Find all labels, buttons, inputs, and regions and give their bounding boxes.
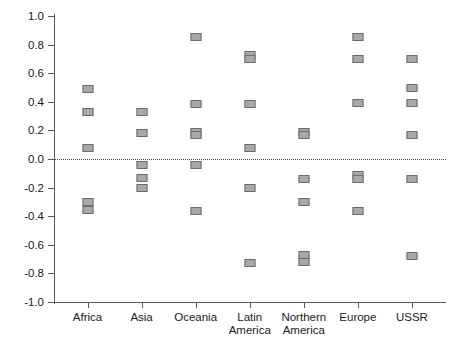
data-point-marker — [82, 144, 93, 152]
x-axis-label-line: Asia — [130, 311, 152, 324]
x-axis-label-line: Africa — [73, 311, 102, 324]
chart-figure: 1.00.80.60.40.20.0-0.2-0.4-0.6-0.8-1.0 A… — [0, 0, 454, 344]
data-point-marker — [136, 174, 147, 182]
x-axis-label-line: USSR — [396, 311, 428, 324]
x-axis-label-line: Oceania — [174, 311, 217, 324]
data-point-marker — [298, 175, 309, 183]
data-point-marker — [352, 175, 363, 183]
x-axis-label-line: Europe — [339, 311, 376, 324]
y-tick-mark — [48, 73, 54, 74]
y-tick-mark — [48, 216, 54, 217]
y-tick-mark — [48, 245, 54, 246]
y-tick-mark — [48, 130, 54, 131]
data-point-marker — [136, 161, 147, 169]
y-tick-label: -0.2 — [4, 182, 44, 194]
y-tick-mark — [48, 16, 54, 17]
y-tick-label: 0.6 — [4, 67, 44, 79]
data-point-marker — [190, 100, 201, 108]
data-point-marker — [406, 84, 417, 92]
data-point-marker — [190, 207, 201, 215]
data-point-marker — [190, 161, 201, 169]
y-tick-label: -0.8 — [4, 267, 44, 279]
x-axis-label-line: America — [281, 324, 326, 337]
y-tick-label: -1.0 — [4, 296, 44, 308]
x-axis-label-oceania: Oceania — [174, 311, 217, 324]
data-point-marker — [352, 33, 363, 41]
y-tick-label: 0.2 — [4, 124, 44, 136]
x-axis-label-asia: Asia — [130, 311, 152, 324]
y-tick-mark — [48, 45, 54, 46]
x-tick-mark — [250, 302, 251, 308]
data-point-marker — [406, 175, 417, 183]
data-point-marker — [244, 184, 255, 192]
y-tick-label: 0.4 — [4, 96, 44, 108]
y-tick-mark — [48, 302, 54, 303]
data-point-marker — [244, 55, 255, 63]
data-point-marker — [82, 85, 93, 93]
data-point-marker — [298, 258, 309, 266]
x-tick-mark — [358, 302, 359, 308]
y-tick-mark — [48, 102, 54, 103]
data-point-marker — [352, 55, 363, 63]
x-tick-mark — [142, 302, 143, 308]
data-point-marker — [136, 129, 147, 137]
x-axis-label-ussr: USSR — [396, 311, 428, 324]
data-point-marker — [136, 184, 147, 192]
zero-line — [54, 159, 446, 160]
data-point-marker — [244, 100, 255, 108]
data-point-marker — [82, 206, 93, 214]
x-tick-mark — [196, 302, 197, 308]
y-tick-mark — [48, 273, 54, 274]
data-point-marker — [244, 144, 255, 152]
x-axis-label-europe: Europe — [339, 311, 376, 324]
x-tick-mark — [412, 302, 413, 308]
data-point-marker — [244, 259, 255, 267]
data-point-marker — [190, 131, 201, 139]
data-point-marker — [136, 108, 147, 116]
x-axis-label-line: Northern — [281, 311, 326, 324]
data-point-marker — [406, 99, 417, 107]
data-point-marker — [82, 198, 93, 206]
y-tick-label: 0.0 — [4, 153, 44, 165]
y-tick-mark — [48, 188, 54, 189]
x-axis-label-africa: Africa — [73, 311, 102, 324]
data-point-marker — [352, 99, 363, 107]
data-point-marker — [406, 131, 417, 139]
y-tick-label: -0.6 — [4, 239, 44, 251]
x-tick-mark — [88, 302, 89, 308]
data-point-marker — [406, 55, 417, 63]
x-axis-label-line: America — [229, 324, 271, 337]
data-point-marker — [406, 252, 417, 260]
y-tick-label: 1.0 — [4, 10, 44, 22]
y-tick-label: 0.8 — [4, 39, 44, 51]
x-axis-label-latin-america: LatinAmerica — [229, 311, 271, 336]
y-tick-label: -0.4 — [4, 210, 44, 222]
data-point-marker — [352, 207, 363, 215]
x-axis-label-northern-america: NorthernAmerica — [281, 311, 326, 336]
data-point-marker — [298, 198, 309, 206]
data-point-marker — [298, 131, 309, 139]
x-tick-mark — [304, 302, 305, 308]
x-axis-label-line: Latin — [229, 311, 271, 324]
data-point-marker — [190, 33, 201, 41]
data-point-marker — [82, 108, 93, 116]
